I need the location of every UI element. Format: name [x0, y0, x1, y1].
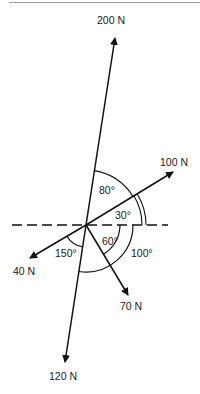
force-label-120n: 120 N — [49, 370, 77, 382]
angle-arc-100 — [79, 225, 133, 272]
force-label-100n: 100 N — [160, 156, 188, 168]
angle-label-80: 80° — [99, 184, 115, 196]
force-label-70n: 70 N — [120, 300, 142, 312]
angle-arc-150 — [67, 236, 83, 247]
angle-label-30: 30° — [115, 209, 131, 221]
angle-label-150: 150° — [55, 247, 77, 259]
force-diagram: 200 N 100 N 40 N 70 N 120 N 80° 30° 60° … — [0, 0, 200, 394]
force-200n-arrow — [86, 38, 115, 225]
force-label-200n: 200 N — [97, 14, 125, 26]
angle-label-60: 60° — [102, 235, 118, 247]
angle-label-100: 100° — [131, 247, 153, 259]
force-120n-arrow — [65, 225, 86, 362]
force-label-40n: 40 N — [13, 265, 35, 277]
